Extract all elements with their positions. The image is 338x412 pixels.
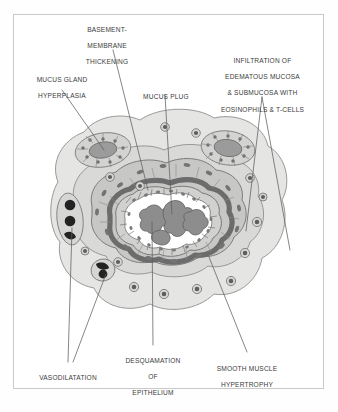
- label-line: EOSINOPHILS & T-CELLS: [205, 106, 320, 114]
- label-infiltration-edematous-mucosa: INFILTRATION OF EDEMATOUS MUCOSA & SUBMU…: [205, 49, 320, 122]
- label-line: HYPERTROPHY: [203, 381, 291, 389]
- label-line: OF: [113, 373, 193, 381]
- label-basement-membrane-thickening: BASEMENT- MEMBRANE THICKENING: [64, 18, 150, 75]
- label-mucus-plug: MUCUS PLUG: [134, 85, 198, 109]
- label-desquamation-of-epithelium: DESQUAMATION OF EPITHELIUM: [113, 349, 193, 406]
- label-line: MEMBRANE: [64, 42, 150, 50]
- label-line: EDEMATOUS MUCOSA: [205, 73, 320, 81]
- label-line: MUCUS GLAND: [20, 76, 104, 84]
- label-line: & SUBMUCOSA WITH: [205, 89, 320, 97]
- label-vasodilatation: VASODILATATION: [28, 366, 108, 390]
- label-line: BASEMENT-: [64, 26, 150, 34]
- figure-canvas: BASEMENT- MEMBRANE THICKENING MUCUS GLAN…: [0, 0, 338, 412]
- label-line: SMOOTH MUSCLE: [203, 365, 291, 373]
- label-mucus-gland-hyperplasia: MUCUS GLAND HYPERPLASIA: [20, 68, 104, 108]
- label-line: INFILTRATION OF: [205, 57, 320, 65]
- label-line: MUCUS PLUG: [134, 93, 198, 101]
- label-line: DESQUAMATION: [113, 357, 193, 365]
- label-line: HYPERPLASIA: [20, 92, 104, 100]
- label-line: THICKENING: [64, 58, 150, 66]
- label-line: VASODILATATION: [28, 374, 108, 382]
- label-smooth-muscle-hypertrophy: SMOOTH MUSCLE HYPERTROPHY: [203, 357, 291, 397]
- label-line: EPITHELIUM: [113, 389, 193, 397]
